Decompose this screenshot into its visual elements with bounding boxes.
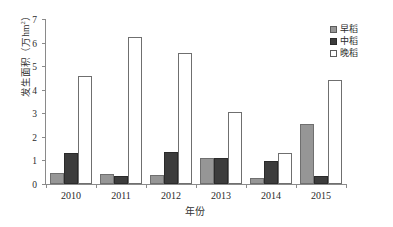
bar-late-rice xyxy=(278,153,292,184)
y-axis-tick-label: 5 xyxy=(32,62,37,72)
y-axis-tick: 3 xyxy=(42,113,46,114)
bar-late-rice xyxy=(228,112,242,184)
x-axis-tick xyxy=(146,184,147,188)
bar-group: 2011 xyxy=(100,19,142,184)
chart-legend: 早稻 中稻 晚稻 xyxy=(330,24,390,60)
legend-swatch-late-rice-icon xyxy=(330,50,337,57)
y-axis-tick: 6 xyxy=(42,43,46,44)
bar-middle-rice xyxy=(164,152,178,184)
y-axis-tick-label: 0 xyxy=(32,180,37,190)
bar-late-rice xyxy=(328,80,342,184)
bar-early-rice xyxy=(250,178,264,184)
y-axis-tick: 4 xyxy=(42,90,46,91)
y-axis-tick-label: 2 xyxy=(32,133,37,143)
legend-swatch-early-rice-icon xyxy=(330,26,337,33)
x-axis-tick-label: 2014 xyxy=(261,190,281,201)
y-axis-tick: 1 xyxy=(42,160,46,161)
bar-middle-rice xyxy=(214,158,228,184)
bar-early-rice xyxy=(300,124,314,184)
bar-early-rice xyxy=(200,158,214,184)
x-axis-tick xyxy=(346,184,347,188)
bar-late-rice xyxy=(78,76,92,184)
legend-item-late-rice: 晚稻 xyxy=(330,48,390,59)
bar-early-rice xyxy=(50,173,64,184)
y-axis-tick: 2 xyxy=(42,137,46,138)
bar-middle-rice xyxy=(314,176,328,184)
x-axis-tick xyxy=(296,184,297,188)
x-axis-tick xyxy=(96,184,97,188)
y-axis-tick-label: 7 xyxy=(32,15,37,25)
y-axis-title-main: 发生面积（万hm xyxy=(21,25,31,97)
x-axis-tick-label: 2013 xyxy=(211,190,231,201)
y-axis-tick: 5 xyxy=(42,66,46,67)
legend-swatch-middle-rice-icon xyxy=(330,38,337,45)
legend-label-middle-rice: 中稻 xyxy=(340,36,358,46)
x-axis-tick-label: 2012 xyxy=(161,190,181,201)
y-axis-title-exponent: 2 xyxy=(19,21,26,24)
bar-group: 2010 xyxy=(50,19,92,184)
bar-group: 2012 xyxy=(150,19,192,184)
bar-middle-rice xyxy=(114,176,128,184)
y-axis-tick-label: 1 xyxy=(32,156,37,166)
x-axis-tick-label: 2010 xyxy=(61,190,81,201)
x-axis-title: 年份 xyxy=(45,203,345,218)
bar-group: 2014 xyxy=(250,19,292,184)
legend-label-early-rice: 早稻 xyxy=(340,24,358,34)
y-axis-tick: 7 xyxy=(42,19,46,20)
legend-item-early-rice: 早稻 xyxy=(330,24,390,35)
bar-middle-rice xyxy=(64,153,78,184)
plot-area: 01234567201020112012201320142015 xyxy=(45,19,346,185)
legend-item-middle-rice: 中稻 xyxy=(330,36,390,47)
x-axis-tick-label: 2011 xyxy=(111,190,131,201)
bar-early-rice xyxy=(100,174,114,184)
bar-middle-rice xyxy=(264,161,278,184)
x-axis-tick xyxy=(46,184,47,188)
y-axis-tick-label: 6 xyxy=(32,39,37,49)
y-axis-title: 发生面积（万hm2） xyxy=(15,0,31,119)
bar-late-rice xyxy=(128,37,142,184)
legend-label-late-rice: 晚稻 xyxy=(340,48,358,58)
bar-early-rice xyxy=(150,175,164,184)
bar-chart: 发生面积（万hm2） 01234567201020112012201320142… xyxy=(0,0,393,227)
x-axis-tick-label: 2015 xyxy=(311,190,331,201)
x-axis-tick xyxy=(246,184,247,188)
y-axis-tick-label: 3 xyxy=(32,109,37,119)
bar-late-rice xyxy=(178,53,192,184)
x-axis-tick xyxy=(196,184,197,188)
y-axis-title-tail: ） xyxy=(21,11,31,21)
bar-group: 2013 xyxy=(200,19,242,184)
y-axis-tick-label: 4 xyxy=(32,86,37,96)
